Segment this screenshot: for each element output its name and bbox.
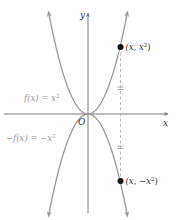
curve-f-left-arrow-icon <box>48 11 49 18</box>
curve-f-equation-label: f(x) = x2 <box>23 93 59 104</box>
curve-f-right-arrow-icon <box>126 11 127 18</box>
curve-negf-left-arrow-icon <box>48 209 49 216</box>
origin-label: O <box>78 117 86 127</box>
point-top-marker <box>118 44 124 50</box>
point-top-label: (x, x2) <box>126 42 151 53</box>
curve-negf-equation-label: −f(x) = −x2 <box>6 133 56 144</box>
x-axis-label: x <box>163 118 168 128</box>
point-bottom-marker <box>118 178 124 184</box>
point-bottom-label: (x, −x2) <box>126 176 158 187</box>
function-reflection-diagram: y x O f(x) = x2 −f(x) = −x2 (x, x2) (x, … <box>0 0 176 220</box>
curve-negf-right-arrow-icon <box>126 209 127 216</box>
y-axis-label: y <box>79 10 86 20</box>
